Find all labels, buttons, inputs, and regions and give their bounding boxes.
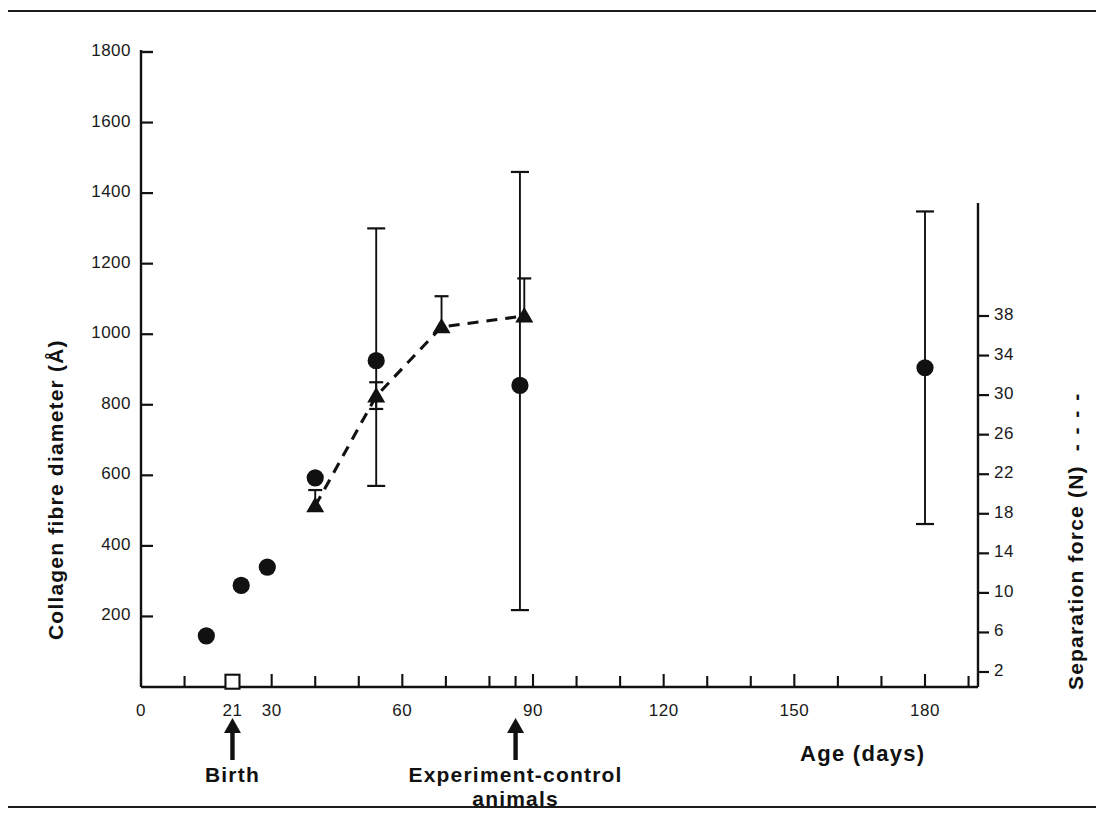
y-tick-label-right: 30 xyxy=(994,384,1034,404)
y-tick-label-right: 18 xyxy=(994,503,1034,523)
y-tick-label-right: 2 xyxy=(994,661,1034,681)
data-point-circle xyxy=(307,469,324,486)
y-tick-label-left: 400 xyxy=(45,535,131,555)
dashed-line-legend-glyph: - - - - xyxy=(1064,392,1087,451)
y-tick-label-right: 10 xyxy=(994,582,1034,602)
x-tick-label: 120 xyxy=(634,701,694,721)
data-point-circle xyxy=(368,352,385,369)
y-tick-label-left: 1800 xyxy=(45,41,131,61)
y-tick-label-left: 1000 xyxy=(45,323,131,343)
data-point-circle xyxy=(233,577,250,594)
x-tick-label: 0 xyxy=(111,701,171,721)
chart-plot-area xyxy=(0,0,1104,818)
data-point-circle xyxy=(198,627,215,644)
y-axis-label-right: Separation force (N)- - - - xyxy=(1064,392,1088,690)
figure-page: Collagen fibre diameter (Å) Separation f… xyxy=(0,0,1104,818)
y-tick-label-right: 22 xyxy=(994,463,1034,483)
x-tick-label: 150 xyxy=(764,701,824,721)
x-tick-label: 180 xyxy=(895,701,955,721)
data-point-circle xyxy=(511,377,528,394)
x-tick-label: 30 xyxy=(242,701,302,721)
data-point-open-square xyxy=(225,675,239,689)
data-point-triangle xyxy=(306,497,324,512)
y-tick-label-left: 800 xyxy=(45,394,131,414)
x-tick-label: 60 xyxy=(372,701,432,721)
y-tick-label-left: 1600 xyxy=(45,112,131,132)
y-tick-label-right: 6 xyxy=(994,621,1034,641)
separation-force-trend-line xyxy=(315,316,524,506)
y-tick-label-left: 600 xyxy=(45,464,131,484)
y-tick-label-right: 26 xyxy=(994,424,1034,444)
data-point-circle xyxy=(259,558,276,575)
y-tick-label-left: 1400 xyxy=(45,182,131,202)
y-tick-label-right: 34 xyxy=(994,345,1034,365)
y-tick-label-right: 38 xyxy=(994,305,1034,325)
data-point-circle xyxy=(916,359,933,376)
y-tick-label-right: 14 xyxy=(994,542,1034,562)
y-tick-label-left: 200 xyxy=(45,605,131,625)
x-axis-label: Age (days) xyxy=(800,741,925,767)
annotation-label: Experiment-control animals xyxy=(316,763,716,811)
y-axis-label-right-text: Separation force (N) xyxy=(1064,465,1087,690)
data-point-triangle xyxy=(515,307,533,322)
data-point-triangle xyxy=(433,318,451,333)
y-axis-label-left: Collagen fibre diameter (Å) xyxy=(44,339,68,640)
y-tick-label-left: 1200 xyxy=(45,253,131,273)
x-tick-label: 90 xyxy=(503,701,563,721)
